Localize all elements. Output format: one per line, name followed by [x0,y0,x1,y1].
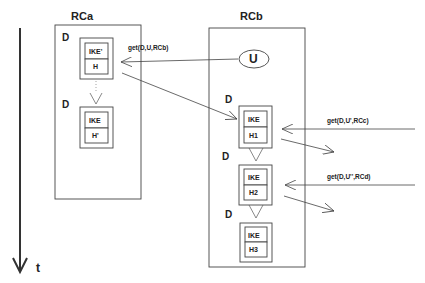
block-ike-label: IKE' [89,48,103,55]
d-label: D [62,99,69,110]
block-ike-label: IKE [248,232,260,239]
d-label: D [225,209,232,220]
d-label: D [225,94,232,105]
message-label: get(D,U',RCc) [327,117,369,125]
block-ike-label: IKE [248,174,260,181]
time-axis-label: t [36,261,40,275]
container-title: RCa [71,10,94,22]
container-title: RCb [240,10,263,22]
container-rcb: RCb U D IKE H1 D IKE H2 D IKE H3 [209,10,305,267]
time-axis: t [13,28,40,275]
d-label: D [222,151,229,162]
block-h-label: H' [92,132,99,139]
block-h-label: H3 [249,246,258,253]
block-h-label: H1 [249,132,258,139]
container-rca: RCa D IKE' H D IKE H' [55,10,141,199]
block-ike-label: IKE [248,116,260,123]
block-h-label: H2 [249,189,258,196]
block-ike-label: IKE [89,117,101,124]
d-label: D [62,32,69,43]
block-h-label: H [93,63,98,70]
diagram-canvas: t RCa D IKE' H D IKE H' RCb U D IKE [0,0,425,283]
message-label: get(D,U'',RCd) [327,173,371,181]
message-label: get(D,U,RCb) [128,44,168,52]
node-u-label: U [249,52,258,66]
